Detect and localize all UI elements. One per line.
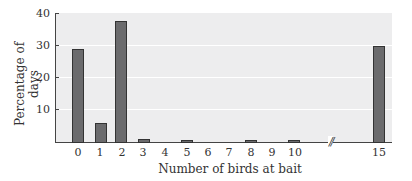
x-tick-label-1: 1 (90, 146, 110, 159)
x-tick-label-9: 9 (262, 146, 282, 159)
gridline-30 (55, 45, 392, 46)
x-tick-label-4: 4 (155, 146, 175, 159)
y-tick-label-40: 40 (28, 8, 50, 19)
gridline-20 (55, 77, 392, 78)
bar-15 (373, 46, 385, 143)
bar-0 (72, 49, 84, 143)
bar-10 (288, 140, 300, 143)
bar-5 (181, 140, 193, 143)
bar-2 (115, 21, 127, 143)
y-tick-20 (55, 77, 59, 78)
x-tick-label-3: 3 (133, 146, 153, 159)
y-axis (55, 13, 56, 143)
bar-1 (95, 123, 107, 143)
x-tick-label-10: 10 (285, 146, 305, 159)
x-tick-label-8: 8 (241, 146, 261, 159)
axis-break-mark: // (328, 136, 333, 148)
x-tick-label-0: 0 (68, 146, 88, 159)
bar-3 (138, 139, 150, 143)
y-tick-40 (55, 13, 59, 14)
gridline-10 (55, 109, 392, 110)
x-tick-label-2: 2 (112, 146, 132, 159)
x-axis-title: Number of birds at bait (140, 162, 320, 176)
y-tick-30 (55, 45, 59, 46)
bar-8 (245, 140, 257, 143)
x-tick-label-15: 15 (369, 146, 389, 159)
x-tick-label-7: 7 (219, 146, 239, 159)
y-tick-10 (55, 109, 59, 110)
y-axis-title: Percentage of days (13, 29, 41, 139)
x-tick-label-5: 5 (177, 146, 197, 159)
x-tick-label-6: 6 (198, 146, 218, 159)
